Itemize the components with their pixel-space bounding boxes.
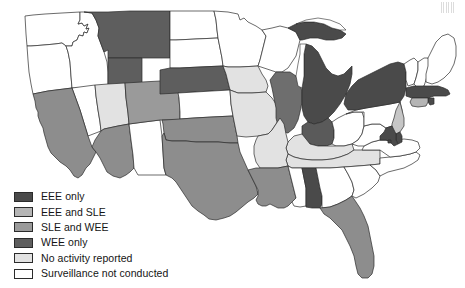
- legend-label-no-activity-reported: No activity reported: [41, 253, 132, 264]
- state-MA[interactable]: [406, 86, 450, 98]
- legend-swatch-wee-only: [14, 238, 33, 248]
- legend-item-eee-and-sle[interactable]: EEE and SLE: [14, 204, 168, 219]
- state-ND[interactable]: [170, 11, 218, 40]
- state-OK[interactable]: [162, 116, 238, 143]
- state-TX[interactable]: [162, 133, 258, 220]
- state-CT[interactable]: [410, 98, 428, 107]
- state-KS[interactable]: [178, 90, 233, 119]
- legend-item-wee-only[interactable]: WEE only: [14, 235, 168, 250]
- legend-label-eee-only: EEE only: [41, 191, 85, 202]
- legend-swatch-eee-only: [14, 192, 33, 202]
- state-ME[interactable]: [426, 34, 456, 84]
- state-SD[interactable]: [170, 38, 223, 68]
- legend-label-surveillance-not-conducted: Surveillance not conducted: [41, 268, 168, 279]
- legend-label-sle-and-wee: SLE and WEE: [41, 222, 109, 233]
- state-OR[interactable]: [27, 43, 72, 94]
- legend-item-sle-and-wee[interactable]: SLE and WEE: [14, 220, 168, 235]
- state-DC[interactable]: [388, 140, 391, 143]
- state-UT[interactable]: [95, 83, 129, 131]
- legend-item-surveillance-not-conducted[interactable]: Surveillance not conducted: [14, 266, 168, 281]
- state-WI[interactable]: [258, 26, 300, 72]
- scan-artifact: [441, 2, 455, 13]
- arboviral-surveillance-map-figure: EEE only EEE and SLE SLE and WEE WEE onl…: [0, 0, 465, 288]
- legend-label-wee-only: WEE only: [41, 237, 88, 248]
- legend-item-eee-only[interactable]: EEE only: [14, 189, 168, 204]
- legend-swatch-no-activity-reported: [14, 253, 33, 263]
- state-MN[interactable]: [214, 11, 266, 67]
- legend-swatch-eee-and-sle: [14, 207, 33, 217]
- state-NE[interactable]: [160, 66, 230, 94]
- state-NY[interactable]: [344, 62, 406, 110]
- map-legend: EEE only EEE and SLE SLE and WEE WEE onl…: [14, 189, 168, 281]
- legend-item-no-activity-reported[interactable]: No activity reported: [14, 251, 168, 266]
- legend-swatch-surveillance-not-conducted: [14, 269, 33, 279]
- state-FL[interactable]: [320, 196, 374, 278]
- legend-label-eee-and-sle: EEE and SLE: [41, 207, 106, 218]
- state-IA[interactable]: [223, 66, 268, 93]
- state-RI[interactable]: [428, 98, 434, 105]
- state-NM[interactable]: [129, 120, 166, 175]
- legend-swatch-sle-and-wee: [14, 222, 33, 232]
